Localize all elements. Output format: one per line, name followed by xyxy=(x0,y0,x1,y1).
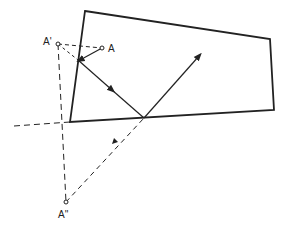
point-a xyxy=(100,46,104,50)
virtual-ray-dashed xyxy=(58,44,78,60)
incident-ray-short xyxy=(80,48,102,60)
point-a-double-prime xyxy=(64,200,68,204)
diagram-canvas: A' A A'' xyxy=(0,0,288,228)
quadrilateral-shape xyxy=(70,11,274,122)
point-a-prime xyxy=(56,42,60,46)
second-image-ray-arrow xyxy=(112,138,118,144)
second-image-ray-dashed xyxy=(66,118,144,202)
label-a-prime: A' xyxy=(43,36,52,47)
outgoing-ray xyxy=(144,56,199,118)
label-a-double-prime: A'' xyxy=(58,209,69,220)
reflected-ray-1 xyxy=(78,60,112,90)
reflected-ray-1-continued xyxy=(112,90,144,118)
label-a: A xyxy=(108,43,115,54)
